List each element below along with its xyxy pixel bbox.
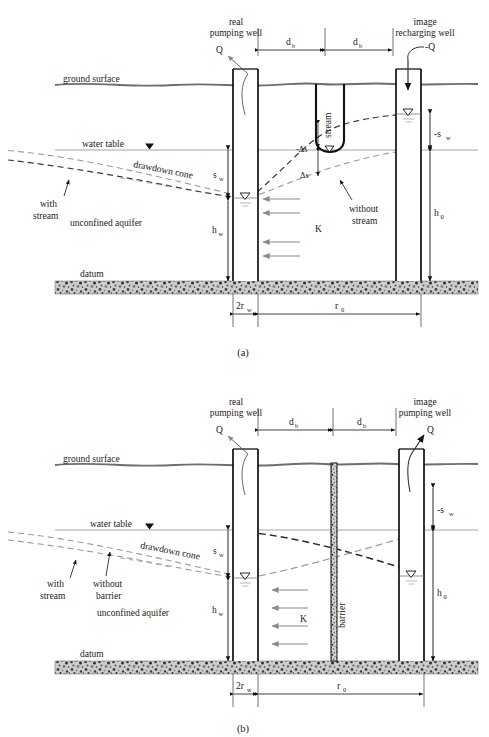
panel-b-r0-label-sub: 0: [343, 686, 346, 693]
panel-b-with-stream-label-line1: with: [47, 579, 64, 589]
panel-b-hw-label-sub: w: [219, 610, 224, 617]
panel-a-hw-label: h: [212, 225, 217, 235]
panel-a-h0-label: h: [434, 208, 439, 218]
panel-b-hw-label: h: [212, 605, 217, 615]
panel-b-real-well-interior: [233, 449, 258, 661]
panel-a-db-right-label: d: [353, 37, 358, 47]
panel-b-db-left-label: d: [289, 417, 294, 427]
panel-a-real-well-title-line2: pumping well: [210, 28, 263, 38]
panel-b-barrier-label: barrier: [337, 602, 347, 628]
panel-b-h0-label: h: [437, 588, 442, 598]
panel-b-real-well-title-line2: pumping well: [210, 408, 263, 418]
panel-a-without-stream-label-line2: stream: [352, 216, 378, 226]
panel-b-2rw-label-sub: w: [247, 686, 252, 693]
panel-a-hydraulic-conductivity-label: K: [315, 224, 322, 234]
panel-b-without-barrier-label-line2: barrier: [96, 591, 122, 601]
panel-b-image-well-q-label: Q: [427, 425, 434, 435]
panel-a-caption: (a): [237, 347, 249, 359]
panel-b-without-barrier-label-line1: without: [93, 579, 122, 589]
panel-b-with-stream-label-line2: stream: [40, 591, 66, 601]
panel-a-with-stream-label-line1: with: [40, 199, 57, 209]
panel-a-neg-sw-label: -s: [434, 129, 441, 139]
panel-a-sw-label-sub: w: [219, 175, 224, 182]
panel-b-water-table-label: water table: [90, 519, 132, 529]
panel-a-h0-label-sub: 0: [441, 213, 444, 220]
panel-a-db-right-label-sub: b: [359, 42, 362, 49]
panel-a-datum-band: [55, 281, 478, 294]
panel-b-h0-label-sub: 0: [444, 593, 447, 600]
panel-b-real-well-q-label: Q: [216, 425, 223, 435]
panel-b-unconfined-aquifer-label: unconfined aquifer: [97, 608, 170, 618]
panel-a-image-well-title-line2: recharging well: [395, 28, 455, 38]
panel-a-r0-label-sub: 0: [341, 306, 344, 313]
panel-b-neg-sw-label-sub: w: [449, 510, 454, 517]
panel-a-image-well-q-label: -Q: [425, 42, 435, 52]
panel-a-db-left-label-sub: b: [292, 42, 295, 49]
panel-a-2rw-label-sub: w: [247, 306, 252, 313]
panel-a-ground-surface-label: ground surface: [63, 74, 120, 84]
panel-b-image-well-title-line2: pumping well: [399, 408, 452, 418]
panel-b-2rw-label: 2r: [236, 681, 245, 691]
panel-a-without-stream-label-line1: without: [349, 204, 378, 214]
panel-a-unconfined-aquifer-label: unconfined aquifer: [70, 218, 143, 228]
panel-b-real-well-title-line1: real: [229, 397, 244, 407]
panel-a-image-well-title-line1: image: [413, 17, 436, 27]
panel-a-real-well-interior: [233, 69, 258, 281]
panel-b-image-well-interior: [399, 449, 424, 661]
panel-b-db-right-label: d: [357, 417, 362, 427]
panel-a-with-stream-label-line2: stream: [33, 211, 59, 221]
panel-a-sw-label: s: [213, 170, 217, 180]
panel-a-db-left-label: d: [286, 37, 291, 47]
panel-b-datum-band: [55, 661, 478, 674]
panel-a-real-well-q-label: Q: [216, 45, 223, 55]
panel-a-delta-s-label: Δs: [300, 170, 309, 180]
panel-a-water-table-label: water table: [82, 139, 124, 149]
panel-b-db-right-label-sub: b: [363, 422, 366, 429]
panel-a-real-well-title-line1: real: [229, 17, 244, 27]
panel-a-image-well-interior: [396, 69, 421, 281]
panel-b-hydraulic-conductivity-label: K: [300, 614, 307, 624]
panel-a-stream-label: stream: [323, 112, 333, 138]
panel-b-datum-label: datum: [80, 649, 104, 659]
well-hydraulics-diagram: real pumping well image recharging well …: [0, 0, 489, 737]
panel-b-image-well-title-line1: image: [413, 397, 436, 407]
panel-b-sw-label-sub: w: [219, 551, 224, 558]
panel-b-caption: (b): [237, 723, 250, 735]
panel-a-neg-sw-label-sub: w: [446, 134, 451, 141]
panel-a-hw-label-sub: w: [219, 230, 224, 237]
panel-b-barrier-wall: [331, 463, 337, 661]
panel-a-neg-delta-s-label: -Δs: [296, 144, 308, 154]
panel-a-2rw-label: 2r: [236, 301, 245, 311]
figure-container: real pumping well image recharging well …: [0, 0, 489, 737]
panel-b-sw-label: s: [213, 546, 217, 556]
panel-b-neg-sw-label: -s: [437, 505, 444, 515]
panel-b-ground-surface-label: ground surface: [63, 454, 120, 464]
panel-a-datum-label: datum: [80, 269, 104, 279]
panel-b-db-left-label-sub: b: [295, 422, 298, 429]
